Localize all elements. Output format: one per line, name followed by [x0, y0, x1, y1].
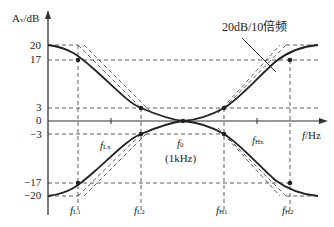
y-tick-minus3: −3	[30, 129, 42, 140]
bode-diagram	[0, 0, 334, 227]
f-Lx-label: fLx	[100, 140, 111, 153]
y-tick-minus20: −20	[24, 190, 41, 201]
guide-lines	[48, 45, 320, 210]
f-H1-label: fH1	[216, 205, 228, 218]
f0-value: (1kHz)	[165, 153, 196, 164]
y-tick-minus17: −17	[24, 177, 41, 188]
y-tick-3: 3	[36, 102, 42, 113]
y-tick-20: 20	[30, 40, 41, 51]
upper-gain-curve	[48, 45, 318, 121]
f0-label: f0	[177, 138, 184, 151]
f-Hx-label: fHx	[252, 135, 264, 148]
y-axis-label: Av/dB	[12, 13, 39, 26]
x-axis-arrow-icon	[319, 118, 328, 124]
y-tick-17: 17	[30, 54, 41, 65]
f-H2-label: fH2	[282, 205, 294, 218]
y-tick-0: 0	[36, 115, 42, 126]
slope-annotation: 20dB/10倍频	[222, 22, 287, 33]
x-axis-label: f/Hz	[302, 130, 321, 141]
f-L1-label: fL1	[70, 205, 81, 218]
f-L2-label: fL2	[134, 205, 145, 218]
y-axis-arrow-icon	[45, 10, 51, 19]
